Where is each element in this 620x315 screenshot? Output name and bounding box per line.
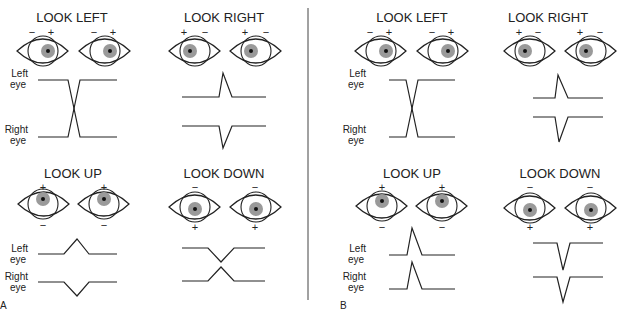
sign-minus: − (535, 26, 541, 38)
panel-a-look-left: LOOK LEFT − + − + Left eye Right eye (5, 10, 130, 146)
eye-icon (355, 36, 406, 66)
eye-icon (416, 191, 467, 221)
sign-minus: − (29, 26, 35, 38)
sign-minus: − (367, 26, 373, 38)
panel-a-look-down: LOOK DOWN − − + + (169, 166, 281, 281)
sign-plus: + (48, 26, 54, 38)
sign-minus: − (252, 181, 258, 193)
trace-label-right-eye: Right (343, 124, 367, 135)
panel-a-look-right: LOOK RIGHT + − + − (169, 10, 281, 148)
eye-icon (17, 36, 68, 66)
panel-a-look-up: LOOK UP + + − − Left eye Right eye (5, 166, 129, 296)
eye-icon (417, 36, 468, 66)
eye-icon (565, 193, 616, 223)
eye-icon (565, 36, 616, 66)
sign-plus: + (192, 221, 198, 233)
panel-b-look-left: LOOK LEFT − + − + Left eye Right eye (343, 10, 468, 146)
trace-label-left-eye: eye (348, 254, 365, 265)
right-eye-trace (389, 80, 455, 137)
eye-icon (78, 189, 129, 219)
left-eye-trace (182, 73, 266, 97)
sign-minus: − (429, 26, 435, 38)
sign-plus: + (110, 26, 116, 38)
trace-label-right-eye: Right (5, 271, 29, 282)
sign-minus: − (263, 26, 269, 38)
right-eye-trace (38, 282, 117, 296)
sign-minus: − (587, 181, 593, 193)
quadrant-title: LOOK UP (383, 166, 441, 181)
left-eye-trace (389, 80, 455, 137)
panel-b-look-down: LOOK DOWN − − + + (504, 166, 616, 302)
quadrant-title: LOOK LEFT (376, 10, 448, 25)
quadrant-title: LOOK RIGHT (184, 10, 264, 25)
sign-plus: + (40, 181, 46, 193)
right-eye-trace (389, 262, 455, 289)
sign-minus: − (101, 219, 107, 231)
sign-plus: + (181, 26, 187, 38)
sign-minus: − (192, 181, 198, 193)
eog-diagram: LOOK LEFT − + − + Left eye Right eye LOO… (0, 0, 620, 315)
trace-label-left-eye: Left (349, 243, 366, 254)
eye-icon (504, 193, 555, 223)
panel-b-look-right: LOOK RIGHT + − + − (504, 10, 616, 142)
eye-icon (356, 191, 407, 221)
sign-minus: − (439, 221, 445, 233)
sign-minus: − (40, 219, 46, 231)
eye-icon (504, 36, 555, 66)
trace-label-left-eye: Left (11, 243, 28, 254)
quadrant-title: LOOK DOWN (184, 166, 265, 181)
quadrant-title: LOOK DOWN (520, 166, 601, 181)
left-eye-trace (182, 248, 265, 262)
trace-label-left-eye: Left (11, 68, 28, 79)
trace-label-left-eye: Left (349, 68, 366, 79)
eye-icon (79, 36, 130, 66)
sign-minus: − (597, 26, 603, 38)
trace-label-left-eye: eye (348, 79, 365, 90)
sign-minus: − (202, 26, 208, 38)
eye-icon (169, 192, 220, 222)
right-eye-trace (38, 80, 117, 137)
sign-plus: + (101, 181, 107, 193)
sign-minus: − (379, 221, 385, 233)
trace-label-right-eye: eye (10, 135, 27, 146)
eye-icon (169, 36, 220, 66)
trace-label-left-eye: eye (10, 254, 27, 265)
quadrant-title: LOOK UP (44, 166, 102, 181)
trace-label-right-eye: eye (348, 282, 365, 293)
eye-icon (230, 192, 281, 222)
right-eye-trace (182, 267, 265, 281)
sign-plus: + (587, 221, 593, 233)
sign-plus: + (386, 26, 392, 38)
left-eye-trace (38, 239, 117, 254)
trace-label-right-eye: Right (5, 124, 29, 135)
sign-plus: + (242, 26, 248, 38)
sign-plus: + (448, 26, 454, 38)
eye-icon (230, 36, 281, 66)
panel-label-a: A (0, 300, 7, 311)
eye-icon (18, 189, 69, 219)
right-eye-trace (533, 277, 603, 302)
sign-plus: + (527, 221, 533, 233)
sign-plus: + (516, 26, 522, 38)
left-eye-trace (533, 243, 603, 270)
trace-label-left-eye: eye (10, 79, 27, 90)
trace-label-right-eye: Right (343, 271, 367, 282)
left-eye-trace (38, 80, 117, 137)
sign-minus: − (527, 181, 533, 193)
quadrant-title: LOOK LEFT (36, 10, 108, 25)
panel-b-look-up: LOOK UP + + − − Left eye Right eye (343, 166, 467, 293)
sign-plus: + (577, 26, 583, 38)
right-eye-trace (533, 117, 603, 142)
left-eye-trace (533, 75, 603, 98)
sign-plus: + (252, 221, 258, 233)
right-eye-trace (182, 126, 266, 148)
quadrant-title: LOOK RIGHT (508, 10, 588, 25)
sign-minus: − (91, 26, 97, 38)
trace-label-right-eye: eye (348, 135, 365, 146)
panel-label-b: B (340, 300, 347, 311)
trace-label-right-eye: eye (10, 282, 27, 293)
